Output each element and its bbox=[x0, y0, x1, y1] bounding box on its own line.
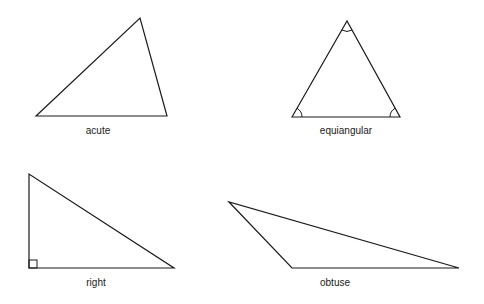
acute-label: acute bbox=[86, 125, 111, 136]
obtuse-triangle: obtuse bbox=[229, 202, 459, 288]
right-label: right bbox=[86, 277, 106, 288]
obtuse-label: obtuse bbox=[320, 277, 350, 288]
angle-arc-left-icon bbox=[297, 108, 302, 117]
right-triangle: right bbox=[29, 174, 174, 288]
acute-triangle: acute bbox=[36, 18, 167, 136]
equiangular-label: equiangular bbox=[320, 125, 373, 136]
equiangular-triangle-shape bbox=[292, 21, 400, 117]
right-angle-marker-icon bbox=[29, 260, 37, 268]
acute-triangle-shape bbox=[36, 18, 167, 116]
equiangular-triangle: equiangular bbox=[292, 21, 400, 136]
triangle-types-diagram: acute equiangular right obtuse bbox=[0, 0, 484, 304]
right-triangle-shape bbox=[29, 174, 174, 268]
angle-arc-right-icon bbox=[390, 108, 395, 117]
angle-arc-top-icon bbox=[342, 30, 352, 31]
obtuse-triangle-shape bbox=[229, 202, 459, 268]
